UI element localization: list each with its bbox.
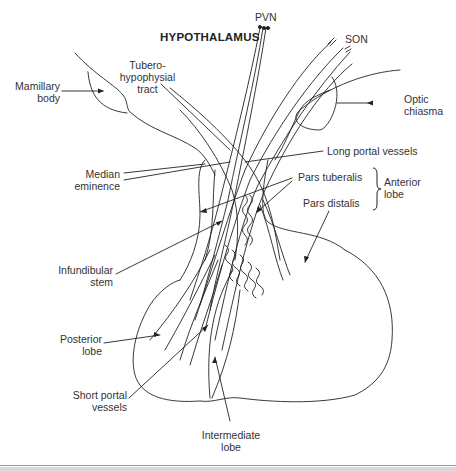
label-long-portal-vessels: Long portal vessels	[327, 145, 417, 157]
leader-posterior	[104, 335, 160, 343]
label-median-eminence: Median eminence	[60, 168, 120, 192]
label-pars-distalis: Pars distalis	[303, 197, 360, 209]
label-anterior-lobe: Anterior lobe	[384, 176, 421, 200]
intermediate-lobe-outline	[209, 270, 233, 398]
label-pvn: PVN	[255, 11, 277, 23]
leader-intermediate	[215, 357, 230, 421]
caption-strip	[0, 467, 456, 472]
intermediate-lobe-outline-2	[212, 290, 240, 398]
label-posterior-lobe: Posterior lobe	[50, 333, 102, 357]
stalk-outline-left	[180, 160, 205, 280]
leader-pars-distalis	[305, 211, 329, 262]
label-intermediate-lobe: Intermediate lobe	[196, 429, 266, 453]
label-son: SON	[345, 33, 368, 45]
bottom-rule	[0, 465, 456, 466]
title-hypothalamus: HYPOTHALAMUS	[160, 31, 260, 43]
anterior-lobe-outline	[133, 250, 392, 402]
leader-pars-tub-2	[256, 181, 292, 213]
label-pars-tuberalis: Pars tuberalis	[298, 171, 362, 183]
stalk-outline-left-inner	[205, 170, 215, 260]
label-short-portal-vessels: Short portal vessels	[60, 389, 127, 413]
label-tuberohypophysial-tract: Tubero- hypophysial tract	[115, 59, 180, 95]
label-infundibular-stem: Infundibular stem	[45, 264, 113, 288]
label-optic-chiasma: Optic chiasma	[404, 93, 443, 117]
leader-infundibular	[116, 221, 222, 274]
label-mamillary-body: Mamillary body	[10, 80, 60, 104]
leader-short-portal	[129, 325, 208, 398]
anterior-lobe-bracket	[373, 168, 381, 210]
